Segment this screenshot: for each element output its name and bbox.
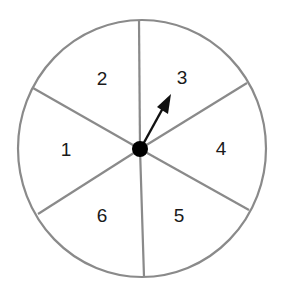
divider-lower-right: [140, 149, 249, 210]
sector-label-2: 2: [97, 68, 108, 89]
divider-upper-right: [140, 83, 247, 149]
sector-label-5: 5: [174, 205, 185, 226]
sector-label-4: 4: [216, 138, 227, 159]
divider-lower-left: [38, 149, 140, 214]
spinner-diagram: 1 2 3 4 5 6: [0, 0, 287, 290]
divider-top: [139, 20, 140, 149]
spinner-hub: [132, 141, 148, 157]
sector-label-6: 6: [97, 205, 108, 226]
divider-bottom: [140, 149, 144, 277]
divider-upper-left: [33, 88, 140, 149]
sector-label-3: 3: [177, 67, 188, 88]
sector-label-1: 1: [61, 139, 72, 160]
